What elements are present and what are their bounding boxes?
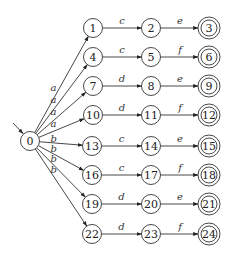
- state-label: 6: [206, 51, 213, 64]
- state-10: 10: [84, 106, 103, 125]
- transition-4-5: c: [103, 44, 142, 57]
- state-label: 11: [144, 109, 158, 122]
- state-16: 16: [83, 166, 102, 185]
- state-0: 0: [21, 132, 40, 151]
- state-label: 18: [202, 169, 216, 182]
- state-label: 7: [90, 80, 97, 93]
- transition-16-17: c: [102, 162, 142, 175]
- state-label: 10: [86, 109, 100, 122]
- transition-8-9: e: [161, 73, 199, 86]
- transition-label: f: [177, 221, 184, 232]
- state-label: 14: [144, 140, 158, 153]
- transition-label: a: [50, 82, 56, 93]
- state-label: 19: [85, 198, 99, 211]
- transition-label: e: [177, 73, 183, 84]
- transition-label: f: [177, 102, 184, 113]
- transition-label: b: [50, 164, 56, 175]
- state-label: 17: [144, 169, 158, 182]
- transition-19-20: d: [102, 191, 142, 204]
- state-6: 6: [198, 46, 220, 68]
- transition-label: d: [118, 221, 124, 232]
- state-22: 22: [83, 225, 102, 244]
- transition-arrow: [39, 119, 84, 138]
- transition-label: a: [50, 106, 56, 117]
- state-label: 9: [206, 80, 213, 93]
- start-arrow-line: [13, 123, 23, 134]
- transition-22-23: d: [102, 221, 142, 234]
- transition-20-21: e: [161, 191, 199, 204]
- state-label: 12: [202, 109, 216, 122]
- state-label: 0: [27, 135, 34, 148]
- state-19: 19: [83, 195, 102, 214]
- transition-0-4: a: [36, 65, 88, 134]
- transition-label: d: [118, 191, 124, 202]
- transition-label: b: [50, 153, 56, 164]
- transition-arrow: [38, 146, 83, 171]
- state-11: 11: [142, 106, 161, 125]
- transition-label: f: [177, 162, 184, 173]
- state-label: 15: [202, 140, 216, 153]
- transition-label: c: [119, 133, 125, 144]
- transition-arrow: [37, 148, 86, 197]
- transition-14-15: e: [161, 133, 199, 146]
- state-15: 15: [198, 135, 220, 157]
- transitions: aaaabbbbcecfdedfcecfdedf: [35, 15, 198, 234]
- state-label: 23: [144, 228, 158, 241]
- transition-label: f: [177, 44, 184, 55]
- transition-0-1: a: [35, 36, 89, 132]
- state-13: 13: [83, 137, 102, 156]
- transition-5-6: f: [161, 44, 199, 57]
- transition-0-19: b: [37, 148, 86, 197]
- transition-label: c: [119, 44, 125, 55]
- state-label: 8: [148, 80, 155, 93]
- state-14: 14: [142, 137, 161, 156]
- automaton-diagram: aaaabbbbcecfdedfcecfdedf 012345678910111…: [0, 0, 235, 256]
- state-label: 3: [206, 22, 213, 35]
- state-8: 8: [142, 77, 161, 96]
- state-label: 21: [202, 198, 216, 211]
- state-label: 4: [90, 51, 97, 64]
- start-arrow: [13, 123, 23, 134]
- state-label: 16: [85, 169, 99, 182]
- transition-2-3: e: [161, 15, 199, 28]
- state-12: 12: [198, 104, 220, 126]
- state-9: 9: [198, 75, 220, 97]
- transition-arrow: [39, 142, 82, 145]
- transition-label: d: [119, 73, 125, 84]
- transition-label: a: [50, 94, 56, 105]
- state-label: 20: [144, 198, 158, 211]
- state-label: 2: [148, 22, 155, 35]
- transition-arrow: [36, 65, 88, 134]
- state-1: 1: [84, 19, 103, 38]
- transition-10-11: d: [103, 102, 142, 115]
- transition-label: c: [119, 15, 125, 26]
- state-label: 22: [85, 228, 99, 241]
- transition-label: e: [177, 191, 183, 202]
- transition-arrow: [35, 36, 89, 132]
- transition-label: e: [177, 15, 183, 26]
- transition-17-18: f: [161, 162, 199, 175]
- state-label: 13: [85, 140, 99, 153]
- transition-1-2: c: [103, 15, 142, 28]
- transition-label: a: [50, 118, 56, 129]
- state-23: 23: [142, 225, 161, 244]
- transition-label: c: [119, 162, 125, 173]
- transition-arrow: [35, 149, 86, 226]
- state-4: 4: [84, 48, 103, 67]
- state-label: 24: [202, 228, 216, 241]
- state-7: 7: [84, 77, 103, 96]
- transition-11-12: f: [161, 102, 199, 115]
- state-5: 5: [142, 48, 161, 67]
- state-3: 3: [198, 17, 220, 39]
- state-18: 18: [198, 164, 220, 186]
- transition-label: d: [119, 102, 125, 113]
- transition-23-24: f: [161, 221, 199, 234]
- state-2: 2: [142, 19, 161, 38]
- state-17: 17: [142, 166, 161, 185]
- state-24: 24: [198, 223, 220, 245]
- state-20: 20: [142, 195, 161, 214]
- transition-7-8: d: [103, 73, 142, 86]
- state-label: 1: [90, 22, 97, 35]
- transition-13-14: c: [102, 133, 142, 146]
- transition-label: e: [177, 133, 183, 144]
